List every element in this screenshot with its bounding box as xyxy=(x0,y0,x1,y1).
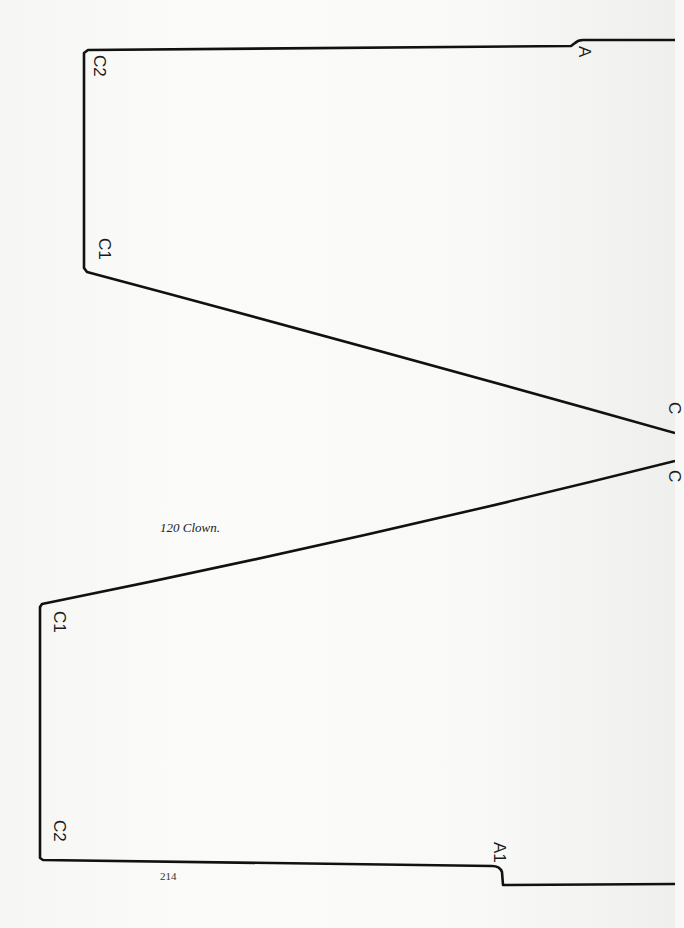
page-number: 214 xyxy=(160,870,177,882)
upper-pattern-outline xyxy=(84,40,675,433)
figure-caption: 120 Clown. xyxy=(160,520,220,536)
label-lower-c1: C1 xyxy=(51,611,68,633)
label-lower-a1: A1 xyxy=(491,842,508,863)
label-upper-c1: C1 xyxy=(96,238,113,260)
label-lower-c2: C2 xyxy=(51,820,68,842)
label-right-mark-top: C xyxy=(666,402,683,414)
label-upper-c2: C2 xyxy=(91,55,108,77)
lower-pattern-outline xyxy=(40,461,675,885)
label-upper-a: A xyxy=(576,46,593,57)
label-right-mark-bottom: C xyxy=(666,470,683,482)
